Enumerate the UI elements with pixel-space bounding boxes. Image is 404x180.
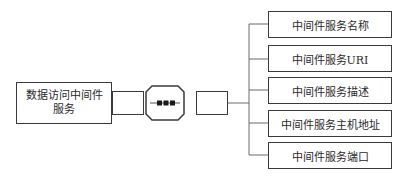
right-connector-stub (196, 91, 228, 115)
main-node-label-line1: 数据访问中间件 (26, 89, 103, 103)
item-service-port: 中间件服务端口 (268, 142, 392, 169)
left-connector-stub (112, 91, 144, 115)
item-label: 中间件服务描述 (292, 83, 369, 99)
item-label: 中间件服务主机地址 (281, 116, 380, 132)
item-service-uri: 中间件服务URI (268, 45, 392, 72)
item-service-name: 中间件服务名称 (268, 11, 392, 38)
data-access-middleware-service-node: 数据访问中间件 服务 (16, 82, 112, 124)
main-node-label-line2: 服务 (26, 103, 103, 117)
item-label: 中间件服务URI (292, 51, 369, 67)
item-service-host-address: 中间件服务主机地址 (268, 110, 392, 137)
item-label: 中间件服务名称 (292, 17, 369, 33)
item-service-description: 中间件服务描述 (268, 77, 392, 104)
item-label: 中间件服务端口 (292, 148, 369, 164)
